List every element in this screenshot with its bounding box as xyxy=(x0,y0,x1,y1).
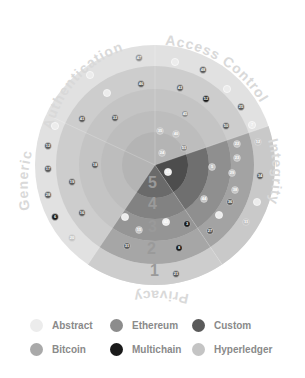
legend-item-custom: Custom xyxy=(192,319,272,332)
legend: Abstract Ethereum Custom Bitcoin Multich… xyxy=(30,313,300,361)
legend-swatch-ethereum xyxy=(110,319,123,332)
ring-label-2: 2 xyxy=(147,240,156,257)
legend-label: Ethereum xyxy=(132,320,178,331)
svg-text:45: 45 xyxy=(183,111,188,116)
sector-label-privacy: Privacy xyxy=(132,287,190,305)
data-point: 23 xyxy=(234,155,241,162)
svg-text:38: 38 xyxy=(233,187,238,192)
svg-text:42: 42 xyxy=(164,219,169,224)
data-point: 18 xyxy=(92,162,99,169)
ring-label-5: 5 xyxy=(148,174,157,191)
svg-text:48: 48 xyxy=(201,67,206,72)
data-point xyxy=(86,71,93,78)
data-point: 11 xyxy=(243,219,250,226)
svg-text:13: 13 xyxy=(166,169,171,174)
data-point: 25 xyxy=(238,104,245,111)
legend-row: Abstract Ethereum Custom xyxy=(30,313,300,337)
svg-text:25: 25 xyxy=(239,104,244,109)
data-point xyxy=(215,211,222,218)
data-point xyxy=(121,213,128,220)
legend-item-abstract: Abstract xyxy=(30,319,110,332)
data-point: 6 xyxy=(52,214,59,221)
svg-text:23: 23 xyxy=(235,155,240,160)
svg-text:16: 16 xyxy=(80,210,85,215)
data-point: 13 xyxy=(164,168,171,175)
data-point: 50 xyxy=(223,123,230,130)
legend-label: Bitcoin xyxy=(52,344,86,355)
svg-text:43: 43 xyxy=(178,85,183,90)
radial-diagram: 1 2 3 4 5 Authentication Access Control … xyxy=(0,0,305,305)
legend-swatch-multichain xyxy=(110,343,123,356)
data-point: 8 xyxy=(176,245,183,252)
data-point: 28 xyxy=(45,192,52,199)
data-point: 31 xyxy=(124,243,131,250)
data-point: 19 xyxy=(69,179,76,186)
svg-text:21: 21 xyxy=(174,271,179,276)
svg-text:15: 15 xyxy=(137,227,142,232)
data-point: 33 xyxy=(112,115,119,122)
data-point: 43 xyxy=(177,85,184,92)
data-point: 47 xyxy=(136,55,143,62)
legend-item-hyperledger: Hyperledger xyxy=(192,343,272,356)
svg-text:27: 27 xyxy=(208,228,213,233)
svg-text:34: 34 xyxy=(258,173,263,178)
data-point: 51 xyxy=(181,145,188,152)
data-point xyxy=(171,58,178,65)
data-point: 7 xyxy=(248,121,255,128)
data-point: 21 xyxy=(173,271,180,278)
sector-label-generic: Generic xyxy=(15,148,36,212)
data-point xyxy=(223,85,230,92)
svg-text:51: 51 xyxy=(182,145,187,150)
svg-text:41: 41 xyxy=(80,116,85,121)
legend-swatch-bitcoin xyxy=(30,343,43,356)
legend-item-multichain: Multichain xyxy=(110,343,192,356)
svg-text:18: 18 xyxy=(93,162,98,167)
data-point: 15 xyxy=(136,227,143,234)
svg-text:31: 31 xyxy=(125,243,130,248)
data-point xyxy=(253,198,260,205)
legend-swatch-abstract xyxy=(30,319,43,332)
data-point: 45 xyxy=(182,111,189,118)
legend-label: Abstract xyxy=(52,320,93,331)
data-point: 36 xyxy=(227,199,234,206)
data-point: 16 xyxy=(79,210,86,217)
data-point: 42 xyxy=(162,218,169,225)
data-point: 17 xyxy=(45,166,52,173)
data-point: 20 xyxy=(69,235,76,242)
data-point: 38 xyxy=(232,187,239,194)
svg-text:22: 22 xyxy=(235,141,240,146)
svg-text:17: 17 xyxy=(46,166,51,171)
data-point: 40 xyxy=(173,131,180,138)
data-point: 3 xyxy=(184,221,191,228)
data-point: 29 xyxy=(229,170,236,177)
legend-label: Hyperledger xyxy=(214,344,272,355)
data-point: 5 xyxy=(209,164,216,171)
svg-text:50: 50 xyxy=(224,123,229,128)
data-point: 12 xyxy=(45,143,52,150)
data-point: 46 xyxy=(138,81,145,88)
svg-text:40: 40 xyxy=(174,131,179,136)
ring-label-1: 1 xyxy=(150,262,159,279)
svg-text:24: 24 xyxy=(160,150,165,155)
data-point: 48 xyxy=(200,67,207,74)
data-point xyxy=(51,122,58,129)
legend-item-bitcoin: Bitcoin xyxy=(30,343,110,356)
svg-text:52: 52 xyxy=(204,96,209,101)
data-point: 41 xyxy=(79,116,86,123)
svg-text:36: 36 xyxy=(228,199,233,204)
ring-label-4: 4 xyxy=(148,195,157,212)
legend-swatch-custom xyxy=(192,319,205,332)
svg-text:46: 46 xyxy=(139,81,144,86)
legend-swatch-hyperledger xyxy=(192,343,205,356)
svg-text:29: 29 xyxy=(230,170,235,175)
svg-text:47: 47 xyxy=(137,55,142,60)
data-point xyxy=(103,89,110,96)
data-point: 27 xyxy=(207,228,214,235)
svg-text:19: 19 xyxy=(70,179,75,184)
svg-text:28: 28 xyxy=(46,192,51,197)
data-point: 34 xyxy=(257,173,264,180)
svg-text:33: 33 xyxy=(113,115,118,120)
legend-label: Custom xyxy=(214,320,251,331)
svg-text:35: 35 xyxy=(158,128,163,133)
legend-label: Multichain xyxy=(132,344,181,355)
